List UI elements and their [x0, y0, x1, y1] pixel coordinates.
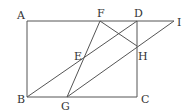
segments — [27, 21, 174, 97]
label-F: F — [97, 7, 105, 20]
label-C: C — [141, 93, 149, 106]
label-E: E — [74, 50, 82, 63]
label-D: D — [134, 7, 143, 20]
label-A: A — [16, 9, 26, 22]
label-I: I — [177, 16, 181, 29]
point-labels: A B C D E F G H I — [16, 7, 181, 112]
label-H: H — [138, 50, 148, 63]
label-G: G — [61, 100, 70, 112]
label-B: B — [17, 93, 25, 106]
geometry-diagram: A B C D E F G H I — [0, 0, 192, 112]
